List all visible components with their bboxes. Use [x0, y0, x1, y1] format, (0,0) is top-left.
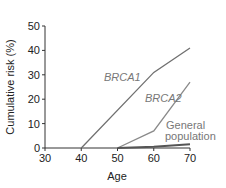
y-tick-label: 10 — [28, 118, 40, 130]
y-axis: 01020304050 — [28, 20, 45, 154]
brca1-label: BRCA1 — [104, 71, 141, 83]
x-tick-label: 40 — [75, 152, 87, 164]
x-axis-title: Age — [107, 170, 127, 182]
general-population-line — [118, 144, 191, 148]
cumulative-risk-chart: 01020304050 3040506070 Cumulative risk (… — [0, 0, 226, 188]
general-population-label-line2: population — [165, 130, 216, 142]
y-tick-label: 40 — [28, 44, 40, 56]
x-axis: 3040506070 — [39, 148, 196, 164]
x-tick-label: 60 — [148, 152, 160, 164]
x-tick-label: 30 — [39, 152, 51, 164]
y-axis-title: Cumulative risk (%) — [4, 39, 16, 134]
x-tick-label: 50 — [111, 152, 123, 164]
x-tick-label: 70 — [184, 152, 196, 164]
brca2-label: BRCA2 — [145, 92, 182, 104]
y-tick-label: 30 — [28, 69, 40, 81]
y-tick-label: 50 — [28, 20, 40, 32]
y-tick-label: 20 — [28, 93, 40, 105]
